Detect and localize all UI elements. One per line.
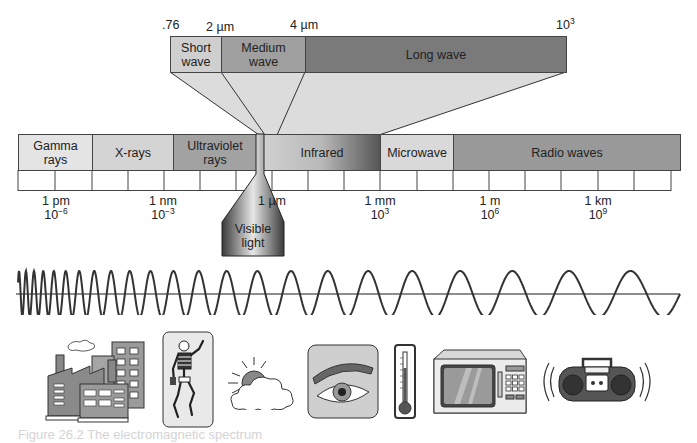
thermometer-icon [394,344,416,420]
ir-band-medium-wave: Mediumwave [221,36,306,73]
microwave-oven-icon [432,349,528,415]
tick-1nm: 1 nm10−3 [143,194,183,222]
sun-cloud-icon [228,355,300,410]
figure-caption: Figure 26.2 The electromagnetic spectrum [18,428,262,442]
band-radio-waves: Radio waves [453,134,681,171]
ir-band-long-wave: Long wave [305,36,567,73]
band-x-rays: X-rays [92,134,174,171]
skeleton-xray-icon [162,331,214,429]
tick-1mm: 1 mm103 [360,194,400,222]
wavelength-wave-icon [0,255,697,315]
ir-band-short-wave: Shortwave [170,36,222,73]
band-gamma-rays: Gammarays [18,134,93,171]
tick-1km: 1 km109 [578,194,618,222]
tick-1pm: 1 pm10−6 [36,194,76,222]
eye-icon [307,344,380,419]
visible-light-label: Visiblelight [222,222,284,250]
band-microwave: Microwave [380,134,454,171]
scale-tick-row [0,170,697,192]
tick-1m: 1 m106 [470,194,510,222]
factory-buildings-icon [42,338,162,423]
tick-1um: 1 µm [252,194,292,208]
boombox-radio-icon [537,355,657,407]
